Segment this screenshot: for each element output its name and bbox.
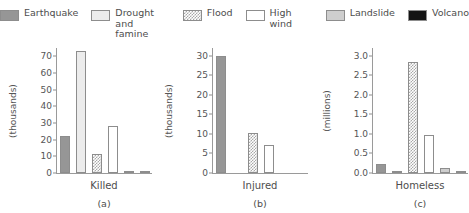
- legend-swatch-earthquake: [0, 10, 19, 21]
- y-axis-label: (thousands): [162, 48, 176, 173]
- y-axis-label-text: (millions): [322, 90, 332, 132]
- panel-caption: (b): [212, 198, 308, 209]
- y-axis-ticks: 0.00.51.01.52.02.53.0: [340, 48, 372, 173]
- legend-item-earthquake[interactable]: Earthquake: [0, 8, 78, 21]
- y-tick-label: 30: [41, 119, 52, 128]
- y-tick-label: 1.5: [354, 110, 368, 119]
- legend-item-drought[interactable]: Drought and famine: [91, 8, 169, 40]
- legend-label-drought: Drought and famine: [115, 8, 169, 40]
- legend-item-flood[interactable]: Flood: [183, 8, 233, 21]
- bar-slot-drought: [389, 48, 405, 173]
- y-tick-label: 0.5: [354, 149, 368, 158]
- y-axis-ticks: 010203040506070: [26, 48, 56, 173]
- bar-highwind[interactable]: [264, 145, 275, 173]
- legend-swatch-landslide: [326, 10, 345, 21]
- x-axis-group-label: Killed: [56, 180, 152, 191]
- y-tick-label: 10: [197, 129, 208, 138]
- bar-slot-highwind: [261, 48, 277, 173]
- bar-series: [57, 48, 153, 173]
- legend-label-volcano: Volcano: [432, 8, 469, 19]
- bar-slot-flood: [89, 48, 105, 173]
- bar-slot-landslide: [437, 48, 453, 173]
- bar-slot-volcano: [293, 48, 309, 173]
- x-axis-line: [212, 173, 308, 174]
- y-axis-label: (thousands): [6, 48, 20, 173]
- y-axis-ticks: 051015202530: [182, 48, 212, 173]
- bar-slot-volcano: [453, 48, 469, 173]
- bar-slot-volcano: [137, 48, 153, 173]
- y-axis-label-text: (thousands): [8, 84, 18, 138]
- legend-label-highwind: High wind: [270, 8, 313, 29]
- x-axis-group-label: Injured: [212, 180, 308, 191]
- bar-flood[interactable]: [408, 62, 419, 173]
- bar-slot-flood: [405, 48, 421, 173]
- y-tick-label: 2.5: [354, 71, 368, 80]
- plot-area: [56, 48, 153, 173]
- y-tick-label: 10: [41, 152, 52, 161]
- chart-legend: EarthquakeDrought and famineFloodHigh wi…: [0, 8, 469, 38]
- bar-series: [373, 48, 469, 173]
- y-tick-label: 5: [202, 149, 208, 158]
- y-tick-label: 60: [41, 69, 52, 78]
- y-tick-label: 15: [197, 110, 208, 119]
- bar-highwind[interactable]: [108, 126, 119, 173]
- y-tick-label: 40: [41, 102, 52, 111]
- bar-slot-landslide: [277, 48, 293, 173]
- legend-swatch-flood: [183, 10, 202, 21]
- y-tick-label: 3.0: [354, 51, 368, 60]
- panel-caption: (c): [372, 198, 468, 209]
- bar-slot-earthquake: [57, 48, 73, 173]
- plot-area: [212, 48, 309, 173]
- legend-label-landslide: Landslide: [350, 8, 395, 19]
- y-tick-label: 2.0: [354, 90, 368, 99]
- chart-panel-b: (thousands)051015202530Injured(b): [156, 40, 312, 213]
- chart-panel-a: (thousands)010203040506070Killed(a): [0, 40, 156, 213]
- y-tick-label: 50: [41, 85, 52, 94]
- y-tick-label: 20: [197, 90, 208, 99]
- bar-slot-earthquake: [373, 48, 389, 173]
- legend-swatch-volcano: [408, 10, 427, 21]
- disasters-bar-chart-figure: EarthquakeDrought and famineFloodHigh wi…: [0, 0, 469, 213]
- bar-slot-flood: [245, 48, 261, 173]
- bar-drought[interactable]: [76, 51, 87, 173]
- y-tick-label: 30: [197, 51, 208, 60]
- bar-slot-drought: [229, 48, 245, 173]
- chart-panel-c: (millions)0.00.51.01.52.02.53.0Homeless(…: [312, 40, 469, 213]
- legend-item-landslide[interactable]: Landslide: [326, 8, 395, 21]
- bar-earthquake[interactable]: [60, 136, 71, 174]
- y-tick-label: 0.0: [354, 169, 368, 178]
- legend-swatch-drought: [91, 10, 110, 21]
- bar-slot-highwind: [421, 48, 437, 173]
- bar-slot-earthquake: [213, 48, 229, 173]
- y-tick-label: 20: [41, 135, 52, 144]
- legend-label-flood: Flood: [207, 8, 233, 19]
- y-tick-label: 0: [202, 169, 208, 178]
- bar-slot-highwind: [105, 48, 121, 173]
- bar-highwind[interactable]: [424, 135, 435, 173]
- bar-earthquake[interactable]: [376, 164, 387, 173]
- legend-item-highwind[interactable]: High wind: [246, 8, 313, 29]
- x-axis-line: [56, 173, 152, 174]
- legend-swatch-highwind: [246, 10, 265, 21]
- x-axis-group-label: Homeless: [372, 180, 468, 191]
- bar-slot-landslide: [121, 48, 137, 173]
- legend-label-earthquake: Earthquake: [24, 8, 78, 19]
- bar-series: [213, 48, 309, 173]
- y-tick-label: 70: [41, 52, 52, 61]
- y-axis-label: (millions): [320, 48, 334, 173]
- y-tick-label: 0: [46, 169, 52, 178]
- x-axis-line: [372, 173, 468, 174]
- y-tick-label: 1.0: [354, 129, 368, 138]
- legend-item-volcano[interactable]: Volcano: [408, 8, 469, 21]
- y-tick-label: 25: [197, 71, 208, 80]
- bar-slot-drought: [73, 48, 89, 173]
- bar-flood[interactable]: [92, 154, 103, 173]
- bar-flood[interactable]: [248, 133, 259, 173]
- plot-area: [372, 48, 469, 173]
- y-axis-label-text: (thousands): [164, 84, 174, 138]
- panel-caption: (a): [56, 198, 152, 209]
- chart-panels: (thousands)010203040506070Killed(a)(thou…: [0, 40, 469, 213]
- bar-earthquake[interactable]: [216, 56, 227, 173]
